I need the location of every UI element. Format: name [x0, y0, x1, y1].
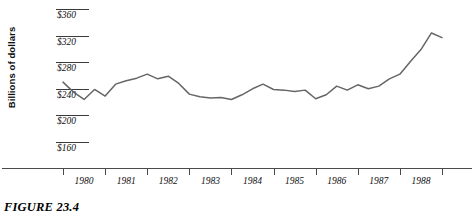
- x-tick-mark: [358, 168, 359, 175]
- x-tick-mark: [63, 168, 64, 175]
- x-tick-mark: [147, 168, 148, 175]
- x-tick-label: 1983: [187, 176, 233, 186]
- x-tick-mark: [442, 168, 443, 175]
- x-tick-label: 1981: [103, 176, 149, 186]
- x-tick-mark: [189, 168, 190, 175]
- x-tick-mark: [316, 168, 317, 175]
- x-tick-label: 1988: [398, 176, 444, 186]
- x-tick-mark: [400, 168, 401, 175]
- series-polyline: [63, 33, 442, 100]
- x-tick-label: 1987: [356, 176, 402, 186]
- figure-caption: FIGURE 23.4: [4, 200, 79, 215]
- x-axis-line: [2, 168, 472, 169]
- x-tick-label: 1982: [145, 176, 191, 186]
- x-tick-mark: [105, 168, 106, 175]
- figure-container: Billions of dollars $360 $320 $280 $240 …: [0, 0, 474, 220]
- x-tick-mark: [231, 168, 232, 175]
- x-tick-label: 1985: [272, 176, 318, 186]
- x-tick-label: 1984: [230, 176, 276, 186]
- data-line-series: [0, 0, 474, 178]
- chart-plot-area: Billions of dollars $360 $320 $280 $240 …: [0, 0, 474, 178]
- x-tick-label: 1986: [314, 176, 360, 186]
- x-tick-mark: [274, 168, 275, 175]
- x-tick-label: 1980: [61, 176, 107, 186]
